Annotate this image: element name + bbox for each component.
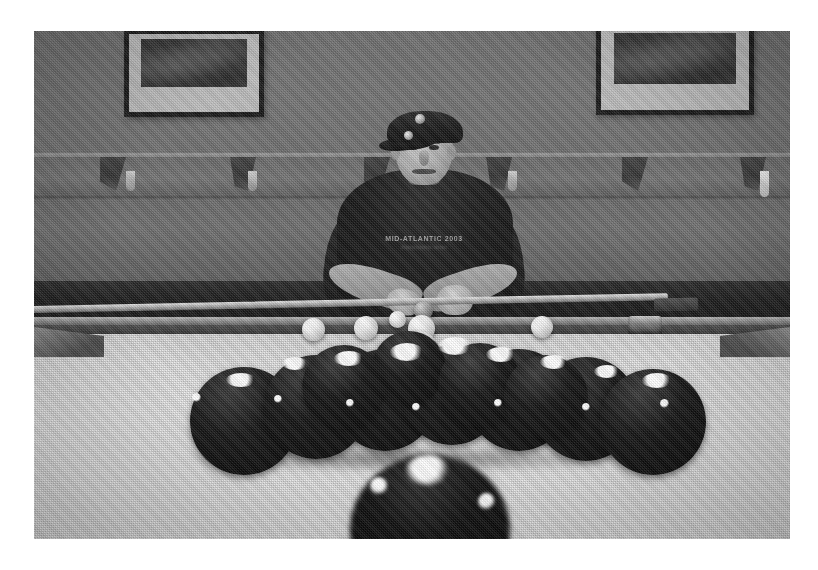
photograph: MID-ATLANTIC 2003 championship series (34, 31, 790, 539)
ball-dot-highlight (192, 393, 201, 402)
screenshot-canvas: MID-ATLANTIC 2003 championship series (0, 0, 818, 570)
foreground-ball-highlight (406, 455, 450, 485)
ball-highlight (226, 373, 256, 387)
ball-highlight (334, 351, 364, 366)
ball-highlight (390, 343, 424, 361)
ball-highlight (282, 357, 308, 370)
foreground-ball-highlight (370, 477, 388, 495)
foreground-ball-highlight (478, 493, 495, 510)
ball-dot-highlight (494, 399, 502, 407)
ball-highlight (540, 355, 568, 369)
ball-dot-highlight (582, 403, 590, 411)
ball-highlight (642, 373, 672, 388)
ball-highlight (486, 347, 516, 362)
ball-dot-highlight (412, 403, 420, 411)
ball-highlight (438, 337, 472, 355)
ball-dot-highlight (274, 395, 282, 403)
ball-dot-highlight (346, 399, 354, 407)
ball-highlight (594, 365, 620, 378)
ball-dot-highlight (660, 399, 669, 408)
